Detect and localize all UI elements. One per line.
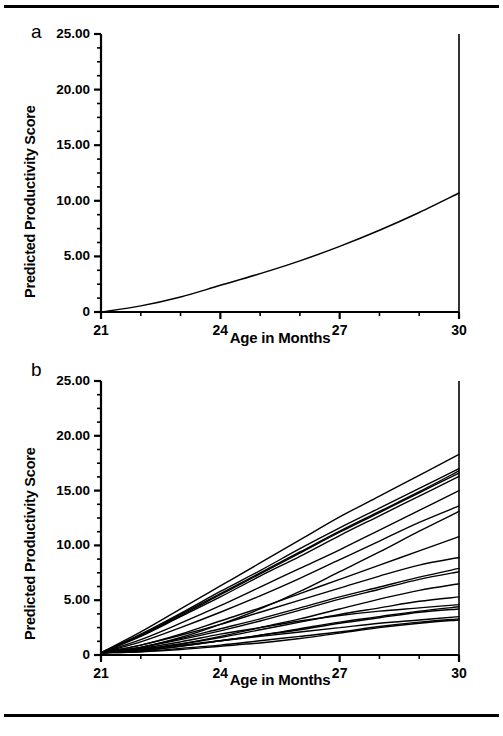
bottom-divider-rule xyxy=(4,714,499,717)
data-curve xyxy=(101,568,459,652)
x-tick-label: 30 xyxy=(434,322,484,338)
y-tick-label: 15.00 xyxy=(30,483,90,498)
x-tick-label: 24 xyxy=(195,665,245,681)
x-tick-label: 24 xyxy=(195,322,245,338)
panel-a: a Predicted Productivity Score Age in Mo… xyxy=(0,18,503,358)
y-tick-label: 10.00 xyxy=(30,193,90,208)
top-divider-rule xyxy=(4,5,499,8)
data-curve xyxy=(101,537,459,653)
x-tick-label: 27 xyxy=(315,322,365,338)
y-tick-label: 25.00 xyxy=(30,26,90,41)
x-tick-label: 30 xyxy=(434,665,484,681)
y-tick-label: 0 xyxy=(30,304,90,319)
panel-b: b Predicted Productivity Score Age in Mo… xyxy=(0,358,503,708)
y-tick-label: 15.00 xyxy=(30,137,90,152)
x-tick-label: 21 xyxy=(76,322,126,338)
y-tick-label: 5.00 xyxy=(30,592,90,607)
y-tick-label: 5.00 xyxy=(30,248,90,263)
y-tick-label: 20.00 xyxy=(30,82,90,97)
y-tick-label: 0 xyxy=(30,647,90,662)
data-curve xyxy=(101,506,459,653)
data-curve xyxy=(101,193,459,312)
figure-container: a Predicted Productivity Score Age in Mo… xyxy=(0,0,503,736)
x-tick-label: 27 xyxy=(315,665,365,681)
y-tick-label: 10.00 xyxy=(30,537,90,552)
x-tick-label: 21 xyxy=(76,665,126,681)
y-tick-label: 20.00 xyxy=(30,428,90,443)
y-tick-label: 25.00 xyxy=(30,373,90,388)
